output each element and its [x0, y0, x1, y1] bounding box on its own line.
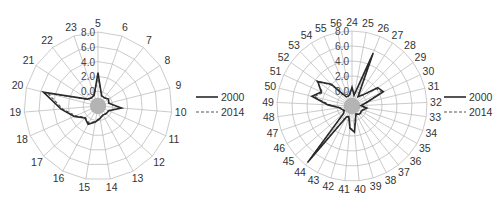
- category-label: 46: [273, 142, 285, 154]
- category-label: 40: [354, 183, 366, 195]
- category-label: 26: [377, 22, 389, 34]
- radial-tick-label: 8.0: [81, 27, 95, 38]
- category-label: 11: [169, 133, 180, 145]
- category-label: 18: [16, 133, 28, 145]
- legend-label-2014: 2014: [469, 106, 493, 118]
- category-label: 29: [415, 51, 427, 63]
- category-label: 55: [315, 22, 327, 34]
- category-label: 53: [288, 39, 300, 51]
- category-label: 19: [9, 106, 21, 118]
- category-label: 8: [165, 54, 171, 66]
- category-label: 9: [176, 79, 182, 91]
- category-label: 13: [132, 172, 144, 184]
- category-label: 7: [146, 34, 152, 46]
- category-label: 17: [31, 156, 43, 168]
- radial-tick-label: 6.0: [81, 42, 95, 53]
- category-label: 44: [294, 166, 306, 178]
- legend-label-2000: 2000: [221, 91, 245, 103]
- category-label: 21: [23, 54, 35, 66]
- radar-charts: 5678910111213141516171819202122230.02.04…: [0, 0, 503, 203]
- category-label: 52: [278, 51, 290, 63]
- category-label: 51: [270, 65, 282, 77]
- category-label: 14: [106, 181, 118, 193]
- radial-tick-label: 2.0: [335, 71, 349, 82]
- category-label: 31: [428, 80, 440, 92]
- category-label: 12: [153, 156, 165, 168]
- axis-spoke: [98, 66, 160, 106]
- category-label: 10: [175, 106, 187, 118]
- category-label: 45: [283, 155, 295, 167]
- category-label: 27: [392, 29, 404, 41]
- legend-label-2014: 2014: [221, 106, 245, 118]
- radial-tick-label: 2.0: [81, 71, 95, 82]
- category-label: 20: [12, 79, 24, 91]
- radial-tick-label: 4.0: [81, 57, 95, 68]
- category-label: 25: [362, 17, 374, 29]
- category-label: 35: [419, 142, 431, 154]
- radar-chart-left: 5678910111213141516171819202122230.02.04…: [9, 17, 244, 194]
- category-label: 16: [53, 172, 65, 184]
- category-label: 50: [265, 80, 277, 92]
- category-label: 49: [262, 96, 274, 108]
- legend-label-2000: 2000: [469, 91, 493, 103]
- category-label: 43: [308, 174, 320, 186]
- category-label: 23: [65, 21, 77, 33]
- category-label: 22: [41, 34, 53, 46]
- radial-tick-label: 8.0: [335, 26, 349, 37]
- category-label: 5: [95, 17, 101, 29]
- category-label: 37: [398, 166, 410, 178]
- axis-spoke: [352, 106, 426, 117]
- category-label: 28: [404, 39, 416, 51]
- category-label: 48: [263, 111, 275, 123]
- category-label: 41: [338, 183, 350, 195]
- radial-tick-label: 4.0: [335, 56, 349, 67]
- category-label: 6: [122, 21, 128, 33]
- category-label: 30: [423, 65, 435, 77]
- category-label: 47: [267, 127, 279, 139]
- category-label: 36: [410, 155, 422, 167]
- category-label: 39: [370, 180, 382, 192]
- category-label: 34: [426, 127, 438, 139]
- category-label: 33: [429, 111, 441, 123]
- axis-spoke: [278, 106, 352, 117]
- axis-spoke: [291, 62, 352, 106]
- radar-chart-right: 2425262728293031323334353637383940414243…: [262, 16, 492, 196]
- category-label: 42: [322, 180, 334, 192]
- category-label: 32: [430, 96, 442, 108]
- category-label: 15: [78, 181, 90, 193]
- radial-tick-label: 0.0: [335, 86, 349, 97]
- radial-tick-label: 6.0: [335, 41, 349, 52]
- category-label: 54: [301, 29, 313, 41]
- axis-spoke: [352, 62, 413, 106]
- category-label: 38: [385, 174, 397, 186]
